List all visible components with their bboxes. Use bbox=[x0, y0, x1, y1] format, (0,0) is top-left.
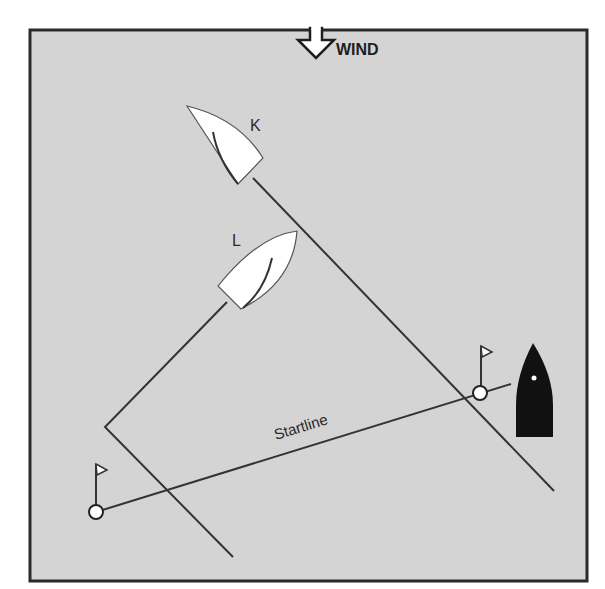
boat-l-label: L bbox=[232, 232, 241, 249]
boat-k-label: K bbox=[250, 117, 261, 134]
water-area bbox=[30, 30, 587, 581]
start-line-diagram: WIND Startline K L bbox=[0, 0, 605, 589]
wind-label: WIND bbox=[336, 41, 379, 58]
